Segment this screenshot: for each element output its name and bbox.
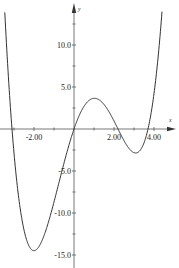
x-tick-label: 2.00 <box>107 133 121 142</box>
function-curve <box>5 12 162 251</box>
y-tick-label: 5.0 <box>61 83 71 92</box>
x-axis-arrow-icon <box>167 127 176 131</box>
y-axis-arrow-icon <box>72 3 76 13</box>
y-tick-label: 10.0 <box>57 41 71 50</box>
y-axis-label: y <box>77 6 81 12</box>
x-axis-label: x <box>168 117 172 123</box>
y-tick-label: -5.0 <box>58 167 71 176</box>
x-tick-label: -2.00 <box>26 133 43 142</box>
axes: -2.002.004.0010.05.0-5.0-10.0-15.0 <box>0 3 176 268</box>
y-tick-label: -10.0 <box>54 209 71 218</box>
x-tick-label: 4.00 <box>147 133 161 142</box>
y-tick-label: -15.0 <box>54 251 71 260</box>
function-plot: -2.002.004.0010.05.0-5.0-10.0-15.0 x y <box>0 0 179 268</box>
